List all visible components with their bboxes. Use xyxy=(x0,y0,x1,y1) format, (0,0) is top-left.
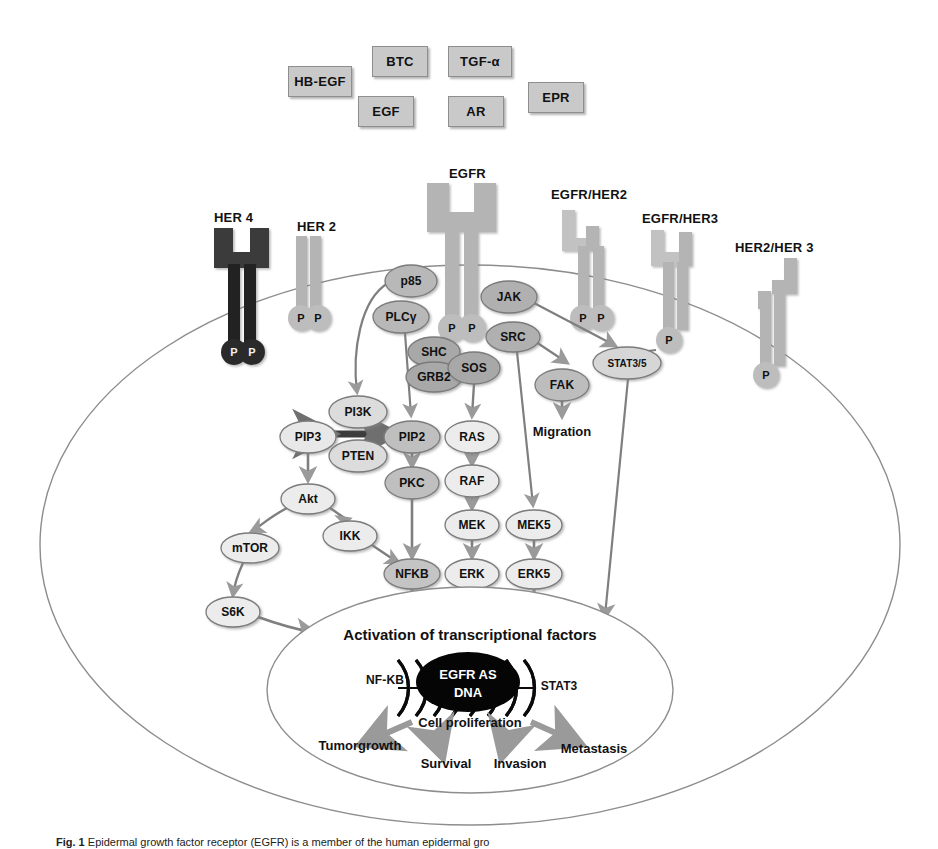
receptor-label: EGFR/HER3 xyxy=(642,211,718,226)
edge-src-mek5 xyxy=(517,352,533,505)
ligand-label: EPR xyxy=(542,90,570,105)
edge-p85-pi3k xyxy=(356,283,388,392)
pathway-node-pip3 xyxy=(280,421,336,453)
pathway-node-stat35 xyxy=(593,347,661,379)
ligand-box: BTC xyxy=(372,46,428,77)
receptor-label: EGFR xyxy=(449,166,486,181)
pathway-node-pi3k xyxy=(329,396,387,428)
tumor-growth-label: Tumorgrowth xyxy=(319,738,402,753)
edge-akt-ikk xyxy=(330,508,349,519)
dna-center-blob xyxy=(416,652,520,712)
receptor-her2 xyxy=(288,236,331,331)
ligand-label: HB-EGF xyxy=(294,74,346,89)
receptor-her2-her3 xyxy=(753,258,797,388)
receptor-label: HER 2 xyxy=(297,219,336,234)
activation-label: Activation of transcriptional factors xyxy=(343,626,596,643)
pathway-node-raf xyxy=(445,465,499,497)
receptor-label: EGFR/HER2 xyxy=(551,187,627,202)
dna-label-line2: DNA xyxy=(454,685,482,700)
pathway-node-sos xyxy=(448,352,500,384)
figure-caption: Fig. 1 Epidermal growth factor receptor … xyxy=(56,836,906,849)
caption-prefix: Fig. 1 xyxy=(56,836,85,848)
ligand-label: EGF xyxy=(372,104,400,119)
ligand-box: TGF-α xyxy=(448,46,512,77)
pathway-node-plcg xyxy=(373,301,429,333)
pathway-node-fak xyxy=(535,369,589,401)
caption-text: Epidermal growth factor receptor (EGFR) … xyxy=(88,836,490,848)
dna-label-line1: EGFR AS xyxy=(439,667,496,682)
pathway-node-src xyxy=(486,322,540,352)
pathway-node-pip2 xyxy=(384,421,440,453)
pathway-node-erk xyxy=(445,559,499,589)
receptor-label: HER 4 xyxy=(214,210,253,225)
ligand-box: EPR xyxy=(528,82,584,113)
pathway-node-akt xyxy=(281,484,335,514)
pathway-node-pten xyxy=(329,440,387,472)
pathway-node-mek5 xyxy=(506,510,562,540)
edge-stat35-nucleus xyxy=(605,379,628,616)
edge-mtor-s6k xyxy=(233,563,243,595)
migration-label: Migration xyxy=(533,424,592,439)
ligand-box: EGF xyxy=(358,96,414,127)
pathway-node-pkc xyxy=(385,467,439,499)
pathway-node-erk5 xyxy=(506,559,562,589)
receptor-egfr-her3 xyxy=(651,230,692,353)
edge-ikk-nfkb xyxy=(372,545,398,562)
receptor-egfr xyxy=(427,183,496,342)
ligand-label: AR xyxy=(466,104,485,119)
ligand-box: AR xyxy=(448,96,504,127)
metastasis-label: Metastasis xyxy=(561,741,627,756)
ligand-label: BTC xyxy=(386,54,414,69)
pathway-node-jak xyxy=(481,281,537,313)
pathway-node-p85 xyxy=(385,265,437,297)
receptor-label: HER2/HER 3 xyxy=(735,240,814,255)
cell-proliferation-label: Cell proliferation xyxy=(418,715,521,730)
edge-src-fak xyxy=(536,342,566,362)
survival-label: Survival xyxy=(421,756,472,771)
pathway-node-mtor xyxy=(221,533,279,563)
pathway-node-ras xyxy=(445,421,499,453)
edge-s6k-nucleus xyxy=(258,617,312,632)
ligand-label: TGF-α xyxy=(460,54,500,69)
pathway-node-mek xyxy=(445,510,499,540)
pathway-node-nfkb xyxy=(384,559,440,589)
edge-akt-mtor xyxy=(252,508,287,531)
pathway-node-ikk xyxy=(323,521,377,551)
invasion-label: Invasion xyxy=(494,756,547,771)
figure-canvas: HB-EGFBTCTGF-αEGFAREPR HER 4HER 2EGFREGF… xyxy=(0,0,938,849)
pathway-node-s6k xyxy=(206,597,260,627)
edge-sos-ras xyxy=(472,384,474,416)
receptor-her4 xyxy=(214,228,269,365)
ligand-box: HB-EGF xyxy=(288,66,352,97)
receptor-egfr-her2 xyxy=(562,210,614,331)
